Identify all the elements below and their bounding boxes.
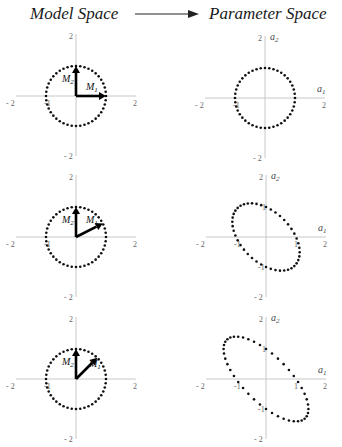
parameter-ellipse-dot [292,88,295,91]
parameter-ellipse-dot [234,97,237,100]
parameter-ellipse-dot [271,352,274,355]
m2-label: M2 [61,356,74,369]
parameter-ellipse-dot [259,344,262,347]
tick-label-y-pos2: 2 [69,173,73,182]
parameter-ellipse-dot [251,202,254,205]
unit-circle-dot [46,103,49,106]
model-space-panel-1: - 222- 2-1M2M1 [6,32,137,161]
parameter-ellipse-dot [236,84,239,87]
unit-circle-dot [49,252,52,255]
parameter-ellipse-dot [303,417,306,420]
unit-circle-dot [102,248,105,251]
parameter-ellipse-dot [268,126,271,129]
unit-circle-dot [52,397,55,400]
unit-circle-dot [102,107,105,110]
unit-circle-dot [66,123,69,126]
unit-circle-dot [62,122,65,125]
unit-circle-dot [79,348,82,351]
parameter-ellipse-dot [283,269,286,272]
parameter-ellipse-dot [288,369,291,372]
m1-label: M1 [85,214,98,227]
tick-label-x-pos2: 2 [133,99,137,108]
parameter-ellipse-dot [235,105,238,108]
unit-circle-dot [49,219,52,222]
tick-label-y-pos2: 2 [259,315,263,324]
tick-label-x-pos2: 2 [323,382,327,391]
parameter-ellipse-dot [255,203,258,206]
parameter-ellipse-dot [264,127,267,130]
parameter-ellipse-dot [232,229,235,232]
unit-circle-dot [70,65,73,68]
tick-label-x-neg1: -1 [234,382,241,391]
parameter-ellipse-dot [234,92,237,95]
parameter-ellipse-dot [255,125,258,128]
unit-circle-dot [70,265,73,268]
vector-m2-head-icon [72,349,80,356]
unit-circle-dot [97,255,100,258]
parameter-ellipse-dot [292,420,295,423]
unit-circle-dot [100,219,103,222]
tick-label-y-pos2: 2 [69,32,73,41]
m2-label: M2 [61,214,74,227]
unit-circle-dot [100,252,103,255]
parameter-ellipse-dot [253,340,256,343]
unit-circle-dot [91,69,94,72]
parameter-ellipse-dot [247,393,250,396]
unit-circle-dot [52,255,55,258]
unit-circle-dot [94,400,97,403]
parameter-ellipse-dot [291,109,294,112]
parameter-ellipse-dot [307,408,310,411]
tick-label-x-neg2: - 2 [6,240,15,249]
unit-circle-dot [103,103,106,106]
parameter-ellipse-dot [294,97,297,100]
unit-circle-dot [83,123,86,126]
parameter-ellipse-dot [280,122,283,125]
parameter-ellipse-dot [305,415,308,418]
unit-circle-dot [49,78,52,81]
unit-circle-dot [66,264,69,267]
parameter-ellipse-dot [223,344,226,347]
parameter-ellipse-dot [283,119,286,122]
unit-circle-dot [105,236,108,239]
parameter-ellipse-dot [300,419,303,422]
unit-circle-dot [91,210,94,213]
parameter-ellipse-dot [251,257,254,260]
tick-label-x-neg2: - 2 [195,101,204,110]
tick-label-y-pos2: 2 [259,173,263,182]
parameter-space-panel-1: - 222- 2-1a2a1 [195,31,326,163]
parameter-ellipse-dot [233,335,236,338]
unit-circle-dot [94,258,97,261]
unit-circle-dot [47,82,50,85]
parameter-ellipse-dot [279,269,282,272]
parameter-ellipse-dot [287,223,290,226]
unit-circle-dot [58,403,61,406]
unit-circle-dot [58,210,61,213]
a1-axis-label: a1 [317,83,326,96]
parameter-ellipse-dot [251,69,254,72]
parameter-ellipse-dot [297,420,300,423]
tick-label-y-neg2: - 2 [254,435,263,444]
unit-circle-dot [79,265,82,268]
unit-circle-dot [87,405,90,408]
parameter-ellipse-dot [255,260,258,263]
parameter-ellipse-dot [236,109,239,112]
parameter-ellipse-dot [298,251,301,254]
parameter-ellipse-dot [244,119,247,122]
unit-circle-dot [104,231,107,234]
parameter-ellipse-dot [286,116,289,119]
unit-circle-dot [104,240,107,243]
parameter-ellipse-dot [271,412,274,415]
unit-circle-dot [62,263,65,266]
parameter-ellipse-dot [239,205,242,208]
tick-label-y-neg2: - 2 [64,152,73,161]
unit-circle-dot [45,240,48,243]
unit-circle-dot [45,373,48,376]
tick-label-x-pos1: 1 [294,240,298,249]
unit-circle-dot [87,350,90,353]
parameter-ellipse-dot [231,220,234,223]
unit-circle-dot [91,120,94,123]
parameter-ellipse-dot [246,202,249,205]
unit-circle-dot [75,266,78,269]
parameter-ellipse-dot [241,116,244,119]
parameter-ellipse-dot [277,415,280,418]
